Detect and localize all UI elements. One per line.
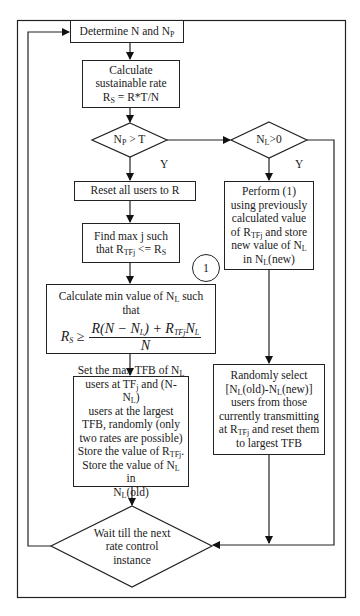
connector-1: 1 [192, 254, 220, 282]
set-max-label: Set the max TFB of NL users at TFj and (… [77, 364, 185, 499]
reset-label: Reset all users to R [91, 184, 180, 198]
random-select-box: Randomly select [NL(old)-NL(new)] users … [213, 364, 325, 455]
calc-min-caption: Calculate min value of NL such that [50, 290, 212, 317]
determine-label: Determine N and NP [80, 25, 175, 39]
reset-users-box: Reset all users to R [74, 181, 196, 201]
random-select-label: Randomly select [NL(old)-NL(new)] users … [219, 369, 319, 450]
determine-n-np-box: Determine N and NP [70, 20, 184, 43]
perform-label: Perform (1) using previously calculated … [231, 185, 307, 266]
find-max-j-box: Find max j such that RTFj <= RS [82, 223, 180, 263]
calculate-sustainable-rate-box: Calculate sustainable rate RS = R*T/N [82, 60, 180, 108]
calc-rate-label: Calculate sustainable rate RS = R*T/N [95, 64, 166, 105]
set-max-tfb-box: Set the max TFB of NL users at TFj and (… [73, 376, 189, 487]
find-label: Find max j such that RTFj <= RS [94, 230, 168, 257]
rate-formula: RS ≥ R(N − NL) + RTFjNL N [61, 322, 202, 352]
calculate-min-nl-box: Calculate min value of NL such that RS ≥… [46, 284, 216, 354]
wait-decision: Wait till the next rate control instance [72, 524, 192, 570]
yes-label-right: Y [295, 158, 303, 170]
wait-label: Wait till the next rate control instance [94, 527, 171, 568]
yes-label-left: Y [160, 158, 168, 170]
decision-np-gt-t: NP > T [92, 131, 167, 149]
decision-nl-gt-zero: NL>0 [231, 131, 307, 149]
perform-box: Perform (1) using previously calculated … [224, 181, 314, 270]
